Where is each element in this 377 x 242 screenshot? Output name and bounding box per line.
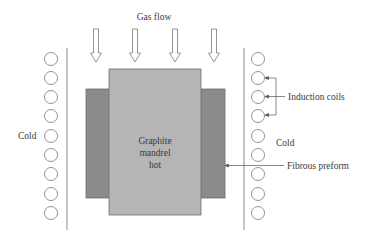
coil-icon bbox=[252, 188, 265, 201]
coil-icon bbox=[252, 130, 265, 143]
coil-icon bbox=[252, 168, 265, 181]
mandrel-label-line2: mandrel bbox=[139, 148, 170, 158]
coil-icon bbox=[252, 149, 265, 162]
mandrel-label-line3: hot bbox=[149, 160, 162, 170]
coil-icon bbox=[252, 72, 265, 85]
cold-right-label: Cold bbox=[276, 138, 295, 148]
coil-icon bbox=[45, 149, 58, 162]
fibrous-preform-label: Fibrous preform bbox=[287, 161, 350, 171]
gas-flow-label: Gas flow bbox=[137, 12, 172, 22]
coil-icon bbox=[45, 72, 58, 85]
right-induction-coils bbox=[252, 53, 265, 220]
coil-icon bbox=[252, 110, 265, 123]
arrowhead-icon bbox=[265, 77, 269, 80]
arrowhead-icon bbox=[265, 114, 269, 117]
arrowhead-icon bbox=[265, 95, 269, 98]
cold-left-label: Cold bbox=[18, 131, 37, 141]
gas-flow-arrow-icon bbox=[209, 29, 220, 62]
gas-flow-arrows bbox=[91, 29, 220, 62]
induction-coils-pointer bbox=[265, 77, 285, 117]
mandrel-label-line1: Graphite bbox=[138, 136, 171, 146]
coil-icon bbox=[45, 53, 58, 66]
induction-coils-label: Induction coils bbox=[288, 92, 345, 102]
coil-icon bbox=[45, 110, 58, 123]
coil-icon bbox=[252, 53, 265, 66]
gas-flow-arrow-icon bbox=[130, 29, 141, 62]
gas-flow-arrow-icon bbox=[170, 29, 181, 62]
fibrous-preform-left bbox=[86, 89, 110, 198]
left-induction-coils bbox=[45, 53, 58, 220]
coil-icon bbox=[252, 207, 265, 220]
coil-icon bbox=[45, 207, 58, 220]
fibrous-preform-pointer bbox=[225, 164, 284, 167]
cvi-reactor-diagram: Gas flow Graphite mandrel bbox=[0, 0, 377, 242]
coil-icon bbox=[252, 91, 265, 104]
coil-icon bbox=[45, 188, 58, 201]
gas-flow-arrow-icon bbox=[91, 29, 102, 62]
coil-icon bbox=[45, 168, 58, 181]
fibrous-preform-right bbox=[200, 89, 225, 198]
arrowhead-icon bbox=[225, 164, 229, 167]
coil-icon bbox=[45, 130, 58, 143]
coil-icon bbox=[45, 91, 58, 104]
